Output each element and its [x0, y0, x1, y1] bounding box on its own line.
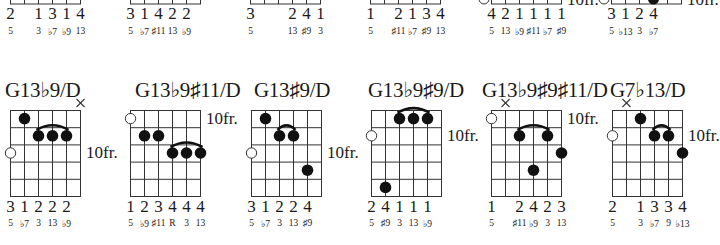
finger-dot	[649, 130, 661, 142]
finger-number-label: 1	[34, 4, 43, 24]
interval-label-label: 3	[184, 218, 189, 228]
interval-label-label: 5	[369, 218, 374, 228]
open-circle-marker	[5, 148, 15, 158]
interval-label-label: 13	[289, 218, 299, 228]
interval-label-label: 13	[196, 218, 206, 228]
fret-position-label: 10fr.	[206, 109, 238, 129]
finger-number-label: 1	[515, 4, 524, 24]
finger-number-label: 2	[501, 4, 510, 24]
interval-label-label: 5	[128, 218, 133, 228]
finger-number-label: 4	[302, 4, 311, 24]
finger-number-label: 1	[543, 4, 552, 24]
finger-number-label: 4	[182, 197, 191, 217]
finger-number-label: 1	[408, 4, 417, 24]
finger-number-label: 2	[289, 197, 298, 217]
finger-number-label: 2	[608, 197, 617, 217]
interval-label-label: ♭7	[261, 218, 270, 229]
finger-number-label: 4	[436, 4, 445, 24]
open-circle-marker	[486, 113, 496, 123]
fret-position-label: 10fr.	[327, 143, 359, 163]
finger-dot	[274, 130, 286, 142]
finger-number-label: 4	[529, 197, 538, 217]
fret-position-label: 10fr.	[567, 0, 599, 10]
finger-dot	[514, 130, 526, 142]
interval-label-label: 5	[609, 26, 614, 36]
chord-name: G13♭9/D	[5, 78, 80, 103]
interval-label-label: 13	[168, 26, 178, 36]
interval-label-label: ♭7	[408, 26, 417, 37]
interval-label-label: 3	[637, 26, 642, 36]
finger-number-label: 2	[6, 4, 15, 24]
finger-dot	[635, 113, 647, 125]
finger-dot	[139, 130, 151, 142]
fretboard-grid	[130, 110, 202, 198]
interval-label-label: 9	[666, 218, 671, 228]
chord-name: G13♭9♯9♯11/D	[482, 78, 608, 103]
finger-number-label: 4	[154, 4, 163, 24]
interval-label-label: ♯9	[422, 26, 432, 36]
interval-label-label: ♭9	[140, 218, 149, 229]
finger-number-label: 2	[635, 4, 644, 24]
finger-number-label: 4	[76, 4, 85, 24]
finger-number-label: 3	[650, 197, 659, 217]
chord-name: G13♯9/D	[254, 78, 330, 103]
muted-string-x-icon	[77, 99, 85, 107]
interval-label-label: ♯9	[381, 218, 391, 228]
finger-number-label: 2	[62, 197, 71, 217]
interval-label-label: 13	[48, 218, 58, 228]
chord-name: G13♭9♯9/D	[368, 78, 464, 103]
interval-label-label: ♭7	[543, 26, 552, 37]
finger-number-label: 1	[557, 4, 566, 24]
finger-number-label: 3	[6, 197, 15, 217]
interval-label-label: 3	[36, 26, 41, 36]
fret-position-label: 10fr.	[86, 143, 118, 163]
interval-label-label: ♯9	[303, 218, 313, 228]
interval-label-label: 5	[610, 218, 615, 228]
interval-label-label: ♭9	[62, 26, 71, 37]
finger-dot	[195, 147, 207, 159]
finger-number-label: 4	[303, 197, 312, 217]
fret-position-label: 10fr.	[687, 0, 719, 10]
finger-number-label: 1	[62, 4, 71, 24]
interval-label-label: ♯11	[152, 218, 166, 228]
open-circle-marker	[246, 148, 256, 158]
finger-dot	[181, 147, 193, 159]
fretboard-grid	[612, 110, 684, 198]
interval-label-label: ♭13	[619, 26, 633, 37]
interval-label-label: ♭7	[650, 218, 659, 229]
finger-number-label: 1	[261, 197, 270, 217]
finger-number-label: 1	[409, 197, 418, 217]
finger-dot	[47, 130, 59, 142]
fret-position-label: 10fr.	[567, 109, 599, 129]
finger-dot	[260, 113, 272, 125]
finger-number-label: 1	[126, 197, 135, 217]
finger-number-label: 2	[275, 197, 284, 217]
finger-number-label: 4	[381, 197, 390, 217]
finger-number-label: 2	[367, 197, 376, 217]
finger-number-label: 3	[422, 4, 431, 24]
finger-number-label: 4	[168, 197, 177, 217]
interval-label-label: ♭7	[20, 218, 29, 229]
fretboard-grid	[10, 110, 82, 198]
interval-label-label: 5	[8, 218, 13, 228]
interval-label-label: 13	[288, 26, 298, 36]
finger-number-label: 1	[316, 4, 325, 24]
interval-label-label: ♯9	[302, 26, 312, 36]
finger-dot	[663, 130, 675, 142]
finger-dot	[394, 113, 406, 125]
fretboard-grid	[491, 110, 563, 198]
interval-label-label: 3	[638, 218, 643, 228]
finger-number-label: 4	[487, 4, 496, 24]
finger-number-label: 3	[154, 197, 163, 217]
finger-number-label: 1	[636, 197, 645, 217]
fret-position-label: 10fr.	[688, 126, 720, 146]
interval-label-label: 3	[397, 218, 402, 228]
finger-number-label: 2	[140, 197, 149, 217]
finger-number-label: 2	[288, 4, 297, 24]
finger-dot	[528, 164, 540, 176]
interval-label-label: 5	[248, 26, 253, 36]
interval-label-label: ♭9	[62, 218, 71, 229]
interval-label-label: ♭7	[48, 26, 57, 37]
finger-number-label: 1	[487, 197, 496, 217]
fretboard-grid-bottom	[370, 0, 442, 6]
